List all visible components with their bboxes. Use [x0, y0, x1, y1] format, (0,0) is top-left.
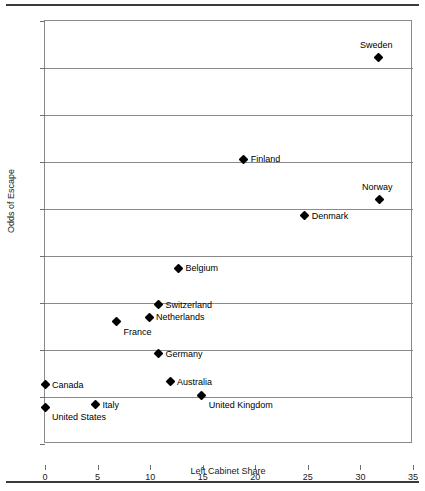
- figure: 051015202530354045 05101520253035 Sweden…: [0, 0, 425, 491]
- data-point-marker: [300, 211, 310, 221]
- y-axis-title: Odds of Escape: [6, 121, 16, 281]
- data-point-label: Italy: [102, 401, 119, 410]
- y-tick-mark: [40, 21, 45, 22]
- data-point-label: Germany: [166, 350, 203, 359]
- data-point-label: United Kingdom: [209, 401, 273, 410]
- data-point-label: Sweden: [360, 41, 393, 50]
- figure-top-rule: [6, 4, 419, 6]
- y-tick-mark: [40, 397, 45, 398]
- data-point-marker: [373, 53, 383, 63]
- gridline: [45, 303, 413, 304]
- data-point-marker: [197, 390, 207, 400]
- data-point-marker: [144, 312, 154, 322]
- y-tick-mark: [40, 115, 45, 116]
- data-point-marker: [165, 377, 175, 387]
- y-tick-mark: [40, 68, 45, 69]
- data-point-label: Australia: [177, 378, 212, 387]
- y-tick-mark: [40, 256, 45, 257]
- data-point-label: Switzerland: [166, 301, 213, 310]
- data-point-label: France: [123, 328, 151, 337]
- data-point-marker: [40, 402, 50, 412]
- data-point-marker: [374, 195, 384, 205]
- data-point-marker: [40, 380, 50, 390]
- gridline: [45, 68, 413, 69]
- data-point-label: Netherlands: [156, 313, 205, 322]
- y-tick-mark: [40, 350, 45, 351]
- data-point-label: Canada: [52, 381, 84, 390]
- x-axis-title: Left Cabinet Share: [44, 466, 412, 476]
- data-point-label: Norway: [362, 183, 393, 192]
- gridline: [45, 115, 413, 116]
- gridline: [45, 256, 413, 257]
- gridline: [45, 350, 413, 351]
- data-point-label: Belgium: [186, 264, 219, 273]
- y-tick-mark: [40, 162, 45, 163]
- data-point-marker: [174, 263, 184, 273]
- data-point-marker: [91, 400, 101, 410]
- x-tick-mark: [413, 465, 414, 470]
- data-point-marker: [154, 300, 164, 310]
- gridline: [45, 209, 413, 210]
- y-tick-mark: [40, 444, 45, 445]
- data-point-label: Finland: [251, 155, 281, 164]
- plot-area: 051015202530354045 05101520253035 Sweden…: [44, 20, 412, 443]
- gridline: [45, 397, 413, 398]
- y-tick-mark: [40, 303, 45, 304]
- data-point-label: United States: [52, 413, 106, 422]
- data-point-marker: [112, 317, 122, 327]
- y-tick-mark: [40, 209, 45, 210]
- data-point-label: Denmark: [312, 212, 349, 221]
- gridline: [45, 162, 413, 163]
